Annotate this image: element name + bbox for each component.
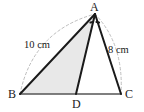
angle-mark-icon-2	[97, 22, 100, 23]
figure-canvas	[0, 0, 144, 112]
vertex-label-d: D	[72, 98, 81, 110]
vertex-label-b: B	[8, 88, 16, 100]
angle-mark-icon-1	[91, 22, 94, 23]
side-length-label-ab: 10 cm	[24, 40, 50, 51]
vertex-label-a: A	[90, 1, 99, 13]
geometry-figure: A B C D 10 cm 8 cm	[0, 0, 144, 112]
vertex-label-c: C	[125, 88, 133, 100]
side-length-label-ac: 8 cm	[108, 45, 129, 56]
angle-marks-at-a	[91, 22, 100, 23]
